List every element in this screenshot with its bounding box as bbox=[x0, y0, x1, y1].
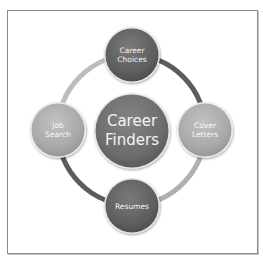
job-search-label: Job Search bbox=[32, 121, 84, 139]
cover-letters-label: Cover Letters bbox=[179, 121, 231, 139]
resumes-label: Resumes bbox=[106, 202, 158, 211]
center-label: Career Finders bbox=[94, 112, 170, 150]
career-choices-label: Career Choices bbox=[106, 46, 158, 64]
